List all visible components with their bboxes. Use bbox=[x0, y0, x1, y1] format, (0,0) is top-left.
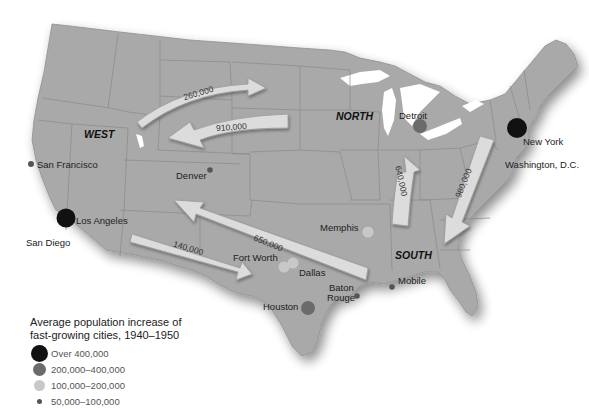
city-dot-mobile bbox=[389, 284, 395, 290]
arrow-label-910000: 910,000 bbox=[216, 121, 247, 133]
city-label-san-francisco: San Francisco bbox=[37, 159, 98, 170]
city-label-houston: Houston bbox=[263, 301, 298, 312]
city-label-detroit: Detroit bbox=[399, 110, 427, 121]
city-dot-dallas bbox=[288, 258, 299, 269]
legend-swatch-light-gray-circle bbox=[34, 380, 45, 391]
region-label-west: WEST bbox=[84, 128, 114, 140]
legend-title-line-1: Average population increase of bbox=[30, 316, 220, 329]
city-dot-san-francisco bbox=[28, 161, 34, 167]
region-label-south: SOUTH bbox=[395, 249, 432, 261]
legend: Average population increase of fast-grow… bbox=[30, 316, 220, 409]
city-dot-houston bbox=[301, 301, 315, 315]
city-label-los-angeles: Los Angeles bbox=[76, 215, 128, 226]
city-dot-denver bbox=[207, 167, 213, 173]
legend-item-label: 50,000–100,000 bbox=[51, 396, 120, 407]
city-label-fort-worth: Fort Worth bbox=[233, 252, 278, 263]
region-label-north: NORTH bbox=[336, 110, 373, 122]
legend-swatch-dark-gray-circle bbox=[33, 363, 46, 376]
legend-title-line-2: fast-growing cities, 1940–1950 bbox=[30, 329, 220, 342]
city-label-memphis: Memphis bbox=[320, 222, 359, 233]
legend-item-200000-400000: 200,000–400,000 bbox=[30, 361, 220, 377]
city-label-san-diego: San Diego bbox=[26, 237, 70, 248]
city-dot-detroit bbox=[413, 119, 427, 133]
city-dot-los-angeles bbox=[57, 209, 76, 228]
city-dot-memphis bbox=[363, 227, 374, 238]
legend-item-label: Over 400,000 bbox=[51, 348, 109, 359]
city-dot-new-york bbox=[507, 118, 527, 138]
legend-item-over-400000: Over 400,000 bbox=[30, 345, 220, 361]
legend-item-label: 200,000–400,000 bbox=[51, 364, 125, 375]
city-label-new-york: New York bbox=[523, 136, 563, 147]
legend-item-50000-100000: 50,000–100,000 bbox=[30, 393, 220, 409]
city-label-mobile: Mobile bbox=[398, 275, 426, 286]
legend-item-100000-200000: 100,000–200,000 bbox=[30, 377, 220, 393]
legend-swatch-small-dot bbox=[37, 399, 42, 404]
city-label-denver: Denver bbox=[176, 170, 207, 181]
city-label-washington-dc: Washington, D.C. bbox=[505, 159, 579, 170]
legend-swatch-black-circle bbox=[31, 345, 48, 362]
city-dot-baton-rouge bbox=[354, 293, 360, 299]
legend-item-label: 100,000–200,000 bbox=[51, 380, 125, 391]
city-label-rouge: Rouge bbox=[327, 292, 355, 303]
city-label-dallas: Dallas bbox=[299, 267, 325, 278]
